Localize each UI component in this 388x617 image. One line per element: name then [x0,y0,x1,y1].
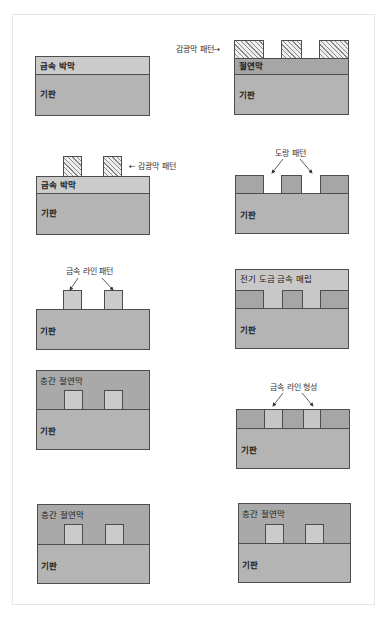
metal-line [265,524,284,544]
insulating-film-layer [236,409,350,429]
insulating-film-block [320,290,349,309]
insulating-film-block [281,175,302,194]
substrate-label: 기판 [40,427,56,436]
metal-line [64,390,83,410]
substrate-label: 기판 [40,327,56,336]
photoresist-block [234,40,264,59]
substrate-label: 기판 [242,561,258,570]
metal-line [63,290,82,310]
substrate-label: 기판 [41,209,57,218]
metal-line-formation-callout: 금속 라인 형성 [270,384,317,392]
metal-line [104,390,123,410]
photoresist-pattern-callout: 감광막 패턴→ [176,46,220,54]
metal-line [104,290,123,310]
cropped-caption-text [16,0,216,3]
interlayer-dielectric-label: 층간 절연막 [242,510,285,519]
photoresist-block [103,156,122,177]
insulating-film-block [235,175,264,194]
metal-line [303,409,321,429]
substrate-label: 기판 [239,91,255,100]
photoresist-block [281,40,302,59]
photoresist-block [319,40,349,59]
insulating-film-label: 절연막 [239,62,263,71]
metal-thin-film-label: 금속 박막 [41,181,76,190]
metal-line [305,524,324,544]
interlayer-dielectric-label: 층간 절연막 [41,511,84,520]
substrate-label: 기판 [40,90,56,99]
metal-line-pattern-callout: 금속 라인 패턴 [66,268,113,276]
interlayer-dielectric-label: 층간 절연막 [40,377,83,386]
insulating-film-block [282,290,303,309]
insulating-film-block [235,290,264,309]
substrate-label: 기판 [241,446,257,455]
substrate-label: 기판 [41,562,57,571]
metal-line [264,409,283,429]
metal-thin-film-label: 금속 박막 [40,62,75,71]
substrate-label: 기판 [240,326,256,335]
trench-pattern-callout: 도랑 패턴 [275,150,306,158]
insulating-film-block [320,175,349,194]
substrate-label: 기판 [240,211,256,220]
photoresist-pattern-callout: ← 감광막 패턴 [129,163,176,171]
photoresist-block [63,156,82,177]
metal-line [105,524,124,545]
electroplated-metal-label: 전기 도금 금속 매립 [240,275,312,284]
metal-line [64,524,83,545]
